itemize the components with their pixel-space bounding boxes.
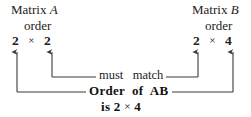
matrix-order-figure: Matrix A order 2×2 Matrix B order 2×4 mu… [0, 0, 251, 117]
result-cols: 4 [131, 99, 141, 114]
result-dimensions: is 2 × 4 [101, 100, 141, 113]
multiplication-sign-icon: × [124, 100, 131, 112]
order-of-ab-caption: Order of AB [86, 84, 172, 97]
result-prefix: is 2 [101, 99, 124, 114]
must-match-caption: must match [96, 69, 166, 82]
